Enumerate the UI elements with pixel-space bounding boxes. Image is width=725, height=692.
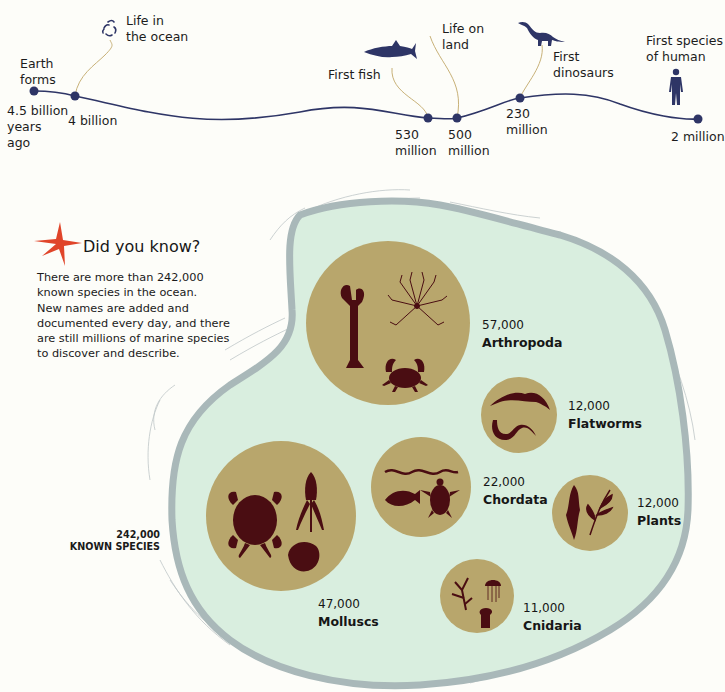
- label-line: land: [442, 37, 484, 53]
- event-label-earth-forms: Earth forms: [20, 56, 56, 88]
- category-name: Plants: [637, 512, 681, 529]
- timeline-line: [34, 91, 698, 120]
- total-species-label: 242,000 KNOWN SPECIES: [70, 529, 160, 553]
- event-time-earth-forms: 4.5 billion years ago: [7, 103, 68, 151]
- category-name: Arthropoda: [482, 334, 562, 351]
- dinosaur-icon: [518, 22, 565, 46]
- starfish-icon: [34, 222, 82, 266]
- label-line: Life on: [442, 21, 484, 37]
- total-number: 242,000: [70, 529, 160, 541]
- time-line: years: [7, 119, 68, 135]
- did-you-know-body: There are more than 242,000 known specie…: [37, 270, 277, 362]
- label-line: First species: [646, 33, 723, 49]
- timeline-dot-4billion: [71, 92, 80, 101]
- timeline-dot-2million: [694, 115, 703, 124]
- label-line: Earth: [20, 56, 56, 72]
- circle-cnidaria: [440, 559, 514, 633]
- event-label-life-ocean: Life in the ocean: [126, 13, 188, 45]
- event-time-first-human: 2 million: [671, 129, 725, 145]
- category-label-plants: 12,000 Plants: [637, 495, 681, 529]
- circle-molluscs: [206, 441, 356, 591]
- category-label-molluscs: 47,000 Molluscs: [318, 596, 379, 630]
- connector-dinosaurs: [520, 45, 542, 98]
- label-line: Life in: [126, 13, 188, 29]
- time-line: 4 billion: [68, 113, 117, 129]
- connector-first-fish: [392, 68, 428, 118]
- timeline-dot-230million: [516, 94, 525, 103]
- category-name: Chordata: [483, 491, 548, 508]
- label-line: of human: [646, 49, 723, 65]
- event-time-life-ocean: 4 billion: [68, 113, 117, 129]
- time-line: 2 million: [671, 129, 725, 145]
- event-label-first-dinosaurs: First dinosaurs: [553, 49, 614, 81]
- time-line: 500: [448, 127, 490, 143]
- microbe-icon: [103, 21, 116, 36]
- category-count: 22,000: [483, 474, 548, 491]
- event-time-first-fish: 530 million: [395, 127, 437, 159]
- time-line: ago: [7, 135, 68, 151]
- time-line: million: [395, 143, 437, 159]
- total-label: KNOWN SPECIES: [70, 541, 160, 553]
- category-name: Cnidaria: [523, 617, 582, 634]
- body-line: are still millions of marine species: [37, 331, 277, 346]
- time-line: million: [506, 122, 548, 138]
- time-line: 4.5 billion: [7, 103, 68, 119]
- category-count: 47,000: [318, 596, 379, 613]
- time-line: million: [448, 143, 490, 159]
- category-label-arthropoda: 57,000 Arthropoda: [482, 317, 562, 351]
- time-line: 230: [506, 106, 548, 122]
- category-count: 57,000: [482, 317, 562, 334]
- category-label-cnidaria: 11,000 Cnidaria: [523, 600, 582, 634]
- label-line: the ocean: [126, 29, 188, 45]
- body-line: New names are added and: [37, 301, 277, 316]
- event-time-life-land: 500 million: [448, 127, 490, 159]
- time-line: 530: [395, 127, 437, 143]
- event-label-first-human: First species of human: [646, 33, 723, 65]
- category-label-chordata: 22,000 Chordata: [483, 474, 548, 508]
- timeline-dot-530million: [424, 114, 433, 123]
- label-line: forms: [20, 72, 56, 88]
- category-count: 12,000: [637, 495, 681, 512]
- event-label-life-land: Life on land: [442, 21, 484, 53]
- body-line: documented every day, and there: [37, 316, 277, 331]
- shark-icon: [364, 40, 417, 59]
- category-count: 11,000: [523, 600, 582, 617]
- did-you-know-title: Did you know?: [83, 237, 200, 256]
- category-label-flatworms: 12,000 Flatworms: [568, 398, 642, 432]
- category-count: 12,000: [568, 398, 642, 415]
- body-line: to discover and describe.: [37, 346, 277, 361]
- label-line: First: [553, 49, 614, 65]
- label-line: dinosaurs: [553, 65, 614, 81]
- timeline-dot-500million: [453, 114, 462, 123]
- connector-life-ocean: [75, 40, 112, 96]
- human-icon: [669, 69, 683, 105]
- circle-chordata: [371, 437, 471, 537]
- event-label-first-fish: First fish: [328, 67, 381, 83]
- category-name: Flatworms: [568, 415, 642, 432]
- event-time-first-dinosaurs: 230 million: [506, 106, 548, 138]
- category-name: Molluscs: [318, 613, 379, 630]
- circle-arthropoda: [306, 241, 470, 405]
- label-line: First fish: [328, 67, 381, 83]
- body-line: known species in the ocean.: [37, 285, 277, 300]
- circle-flatworms: [481, 377, 557, 453]
- body-line: There are more than 242,000: [37, 270, 277, 285]
